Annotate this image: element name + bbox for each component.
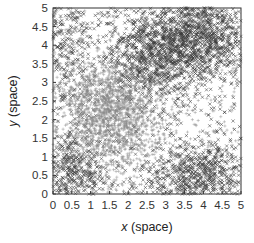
x-tick-label: 5 bbox=[238, 199, 244, 211]
y-axis-label: y (space) bbox=[6, 75, 20, 127]
y-tick-label: 3 bbox=[42, 76, 48, 88]
x-tick-label: 4 bbox=[200, 199, 207, 211]
y-axis-ticks: 00.511.522.533.544.55 bbox=[32, 2, 56, 200]
y-tick-label: 0 bbox=[42, 188, 48, 200]
y-tick-label: 4.5 bbox=[32, 21, 48, 33]
x-axis-label: x (space) bbox=[120, 220, 172, 234]
y-tick-label: 0.5 bbox=[32, 169, 48, 181]
x-tick-label: 3 bbox=[163, 199, 169, 211]
y-tick-label: 3.5 bbox=[32, 58, 48, 70]
y-tick-label: 5 bbox=[42, 2, 48, 14]
data-points bbox=[52, 7, 243, 196]
y-tick-label: 1 bbox=[42, 151, 48, 163]
x-tick-label: 2 bbox=[125, 199, 131, 211]
x-tick-label: 4.5 bbox=[214, 199, 230, 211]
y-tick-label: 1.5 bbox=[32, 132, 48, 144]
x-tick-label: 1 bbox=[87, 199, 93, 211]
x-tick-label: 3.5 bbox=[177, 199, 193, 211]
y-tick-label: 2 bbox=[42, 114, 48, 126]
x-tick-label: 1.5 bbox=[101, 199, 117, 211]
x-tick-label: 0.5 bbox=[64, 199, 80, 211]
y-tick-label: 4 bbox=[42, 39, 49, 51]
y-tick-label: 2.5 bbox=[32, 95, 48, 107]
x-tick-label: 2.5 bbox=[139, 199, 155, 211]
scatter-chart: 00.511.522.533.544.55 00.511.522.533.544… bbox=[0, 0, 254, 243]
x-tick-label: 0 bbox=[50, 199, 56, 211]
